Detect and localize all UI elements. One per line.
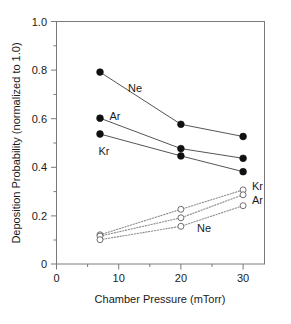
y-tick-label-02: 0.2 [32,210,47,222]
plot-frame [57,22,265,265]
y-tick-label-1: 1.0 [32,16,47,28]
deposition-probability-chart: 1.0 0.8 0.6 0.4 0.2 0 0 10 20 30 Chamber… [0,0,291,324]
markers-open [97,187,246,243]
y-axis-title: Deposition Probability (normalized to 1.… [10,42,22,243]
y-tick-label-06: 0.6 [32,113,47,125]
data-point-ne-lower-30 [240,203,246,209]
x-tick-label-30: 30 [237,272,249,284]
data-point-ar-upper-30 [240,155,247,162]
data-point-ar-upper-7 [97,115,104,122]
data-point-ne-upper-7 [97,69,104,76]
chart-figure: 1.0 0.8 0.6 0.4 0.2 0 0 10 20 30 Chamber… [0,0,291,324]
x-tick-label-0: 0 [53,272,59,284]
data-point-ne-lower-7 [97,237,103,243]
series-label-ar-upper: Ar [110,110,121,122]
data-point-kr-upper-30 [240,168,247,175]
series-label-ne-lower: Ne [197,222,211,234]
x-tick-label-20: 20 [175,272,187,284]
y-tick-label-0: 0 [41,258,47,270]
series-line-ar-upper [100,118,243,158]
data-point-kr-upper-7 [97,131,104,138]
data-point-ne-upper-30 [240,133,247,140]
y-tick-label-08: 0.8 [32,64,47,76]
data-point-ar-lower-20 [178,215,184,221]
series-label-kr-lower: Kr [252,180,263,192]
data-point-ar-lower-30 [240,192,246,198]
y-tick-label-04: 0.4 [32,161,47,173]
data-point-ne-lower-20 [178,223,184,229]
data-point-kr-lower-20 [178,206,184,212]
x-tick-label-10: 10 [113,272,125,284]
series-line-ne-upper [100,72,243,136]
data-point-ar-upper-20 [178,145,185,152]
data-point-ne-upper-20 [178,121,185,128]
series-label-ar-lower: Ar [252,194,263,206]
series-line-ne-lower [100,206,243,240]
series-label-kr-upper: Kr [99,145,110,157]
data-point-kr-upper-20 [178,153,185,160]
series-line-ar-lower [100,195,243,236]
series-label-ne-upper: Ne [128,82,142,94]
series-line-kr-upper [100,134,243,172]
x-axis-title: Chamber Pressure (mTorr) [95,293,226,305]
